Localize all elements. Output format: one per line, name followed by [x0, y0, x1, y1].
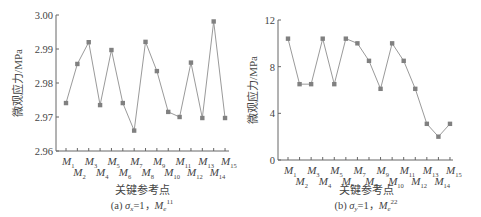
caption-m-sub: e — [163, 205, 166, 213]
data-point-marker — [155, 69, 159, 73]
data-point-marker — [98, 103, 102, 107]
data-point-marker — [223, 116, 227, 120]
x-tick-label: M10 — [163, 166, 180, 180]
data-series — [64, 19, 227, 133]
y-tick-label: 0 — [270, 155, 275, 166]
x-tick-label: M1 — [283, 164, 296, 178]
y-axis-title: 微观应力/MPa — [11, 49, 24, 117]
data-point-marker — [297, 82, 301, 86]
data-point-marker — [332, 82, 336, 86]
y-tick-label: 2.96 — [35, 146, 53, 157]
x-tick-label: M2 — [295, 175, 308, 189]
x-tick-label: M4 — [318, 175, 332, 189]
y-tick-label: 12 — [265, 15, 276, 26]
x-tick-label: M14 — [433, 175, 450, 189]
caption-m-sub: e — [387, 205, 390, 213]
chart-panel-b: 微观应力/MPa 04812 M1M2M3M4M5M6M7M8M9M10M11M… — [240, 0, 481, 217]
caption-prefix: (b) — [334, 200, 349, 212]
data-point-marker — [402, 59, 406, 63]
data-point-marker — [132, 128, 136, 132]
y-tick-label: 2.97 — [35, 112, 53, 123]
data-point-marker — [286, 36, 290, 40]
data-point-marker — [189, 60, 193, 64]
data-point-marker — [425, 122, 429, 126]
y-tick-label: 3.00 — [35, 10, 53, 21]
x-tick-label: M14 — [209, 166, 226, 180]
y-axis-label: 微观应力/MPa — [246, 56, 259, 124]
x-tick-label: M9 — [376, 164, 389, 178]
data-point-marker — [413, 87, 417, 91]
data-point-marker — [378, 87, 382, 91]
caption-mid: =1， — [133, 200, 154, 211]
data-point-marker — [109, 48, 113, 52]
x-axis-title: 关键参考点 — [115, 183, 170, 196]
data-point-marker — [211, 19, 215, 23]
axes: 04812 — [265, 15, 454, 166]
data-series — [286, 36, 452, 138]
panel-caption: (a) σx=1，Me11 — [111, 198, 174, 213]
x-tick-labels: M1M2M3M4M5M6M7M8M9M10M11M12M13M14M15 — [61, 155, 237, 180]
data-point-marker — [448, 122, 452, 126]
x-tick-label: M4 — [95, 166, 109, 180]
y-tick-label: 4 — [270, 108, 276, 119]
data-point-marker — [344, 36, 348, 40]
x-tick-label: M12 — [410, 175, 427, 189]
caption-m-sup: 22 — [391, 198, 399, 206]
x-tick-label: M12 — [186, 166, 203, 180]
caption-prefix: (a) — [111, 200, 125, 212]
x-axis-title: 关键参考点 — [339, 183, 394, 196]
data-point-marker — [121, 101, 125, 105]
x-tick-label: M8 — [141, 166, 154, 180]
chart-panel-a: 微观应力/MPa 2.962.972.982.993.00 M1M2M3M4M5… — [0, 0, 240, 217]
x-tick-label: M15 — [445, 164, 462, 178]
y-tick-label: 2.98 — [35, 78, 53, 89]
data-point-marker — [143, 40, 147, 44]
x-tick-label: M15 — [220, 155, 237, 169]
x-tick-label: M5 — [329, 164, 342, 178]
data-point-marker — [309, 82, 313, 86]
axes: 2.962.972.982.993.00 — [35, 10, 229, 157]
y-tick-label: 8 — [270, 62, 275, 73]
data-point-marker — [321, 36, 325, 40]
series-line — [66, 21, 225, 130]
data-point-marker — [390, 41, 394, 45]
data-point-marker — [64, 101, 68, 105]
data-point-marker — [177, 115, 181, 119]
x-tick-label: M2 — [72, 166, 85, 180]
x-tick-label: M6 — [118, 166, 132, 180]
data-point-marker — [367, 59, 371, 63]
data-point-marker — [355, 41, 359, 45]
data-point-marker — [200, 116, 204, 120]
y-axis-title: 微观应力/MPa — [246, 56, 259, 124]
panel-caption: (b) σy=1，Me22 — [334, 198, 398, 213]
caption-m-sup: 11 — [166, 198, 173, 206]
x-tick-label: M3 — [306, 164, 319, 178]
data-point-marker — [166, 110, 170, 114]
y-tick-label: 2.99 — [35, 44, 53, 55]
data-point-marker — [75, 62, 79, 66]
y-axis-label: 微观应力/MPa — [11, 49, 24, 117]
data-point-marker — [87, 40, 91, 44]
caption-mid: =1， — [358, 200, 379, 211]
data-point-marker — [436, 134, 440, 138]
